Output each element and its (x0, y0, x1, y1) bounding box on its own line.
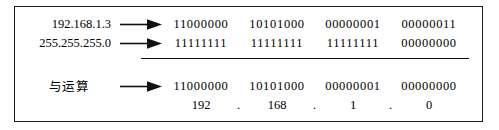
decimal-octet: 168 (241, 96, 313, 115)
and-operation-diagram: 192.168.1.3 1100000010101000000000010000… (14, 6, 483, 122)
binary-octet: 00000001 (317, 77, 389, 96)
subnet-mask-label: 255.255.255.0 (15, 34, 111, 53)
right-arrow-icon (119, 34, 163, 53)
binary-octet: 10101000 (241, 15, 313, 34)
binary-octet: 00000011 (393, 15, 465, 34)
decimal-result: 19216810 . . . (165, 96, 477, 115)
right-arrow-icon (119, 77, 163, 96)
right-arrow-icon (119, 15, 163, 34)
ip-address-row: 192.168.1.3 1100000010101000000000010000… (15, 15, 482, 34)
binary-octet: 11111111 (165, 34, 237, 53)
decimal-octet: 192 (165, 96, 237, 115)
decimal-octet: 0 (393, 96, 465, 115)
binary-octet: 00000001 (317, 15, 389, 34)
decimal-separator: . (313, 96, 316, 115)
binary-octet: 11000000 (165, 15, 237, 34)
subnet-mask-row: 255.255.255.0 11111111111111111111111100… (15, 34, 482, 53)
binary-octet: 11111111 (241, 34, 313, 53)
binary-octet: 11000000 (165, 77, 237, 96)
binary-octet: 10101000 (241, 77, 313, 96)
and-result-row: 与运算 11000000101010000000000100000000 (15, 77, 482, 96)
ip-address-binary: 11000000101010000000000100000011 (165, 15, 477, 34)
and-operation-label: 与运算 (21, 77, 117, 96)
decimal-separator: . (237, 96, 240, 115)
operation-divider-line (141, 58, 469, 59)
decimal-separator: . (389, 96, 392, 115)
decimal-result-row: 19216810 . . . (15, 96, 482, 115)
and-result-binary: 11000000101010000000000100000000 (165, 77, 477, 96)
binary-octet: 11111111 (317, 34, 389, 53)
binary-octet: 00000000 (393, 34, 465, 53)
ip-address-label: 192.168.1.3 (15, 15, 111, 34)
decimal-octet: 1 (317, 96, 389, 115)
binary-octet: 00000000 (393, 77, 465, 96)
subnet-mask-binary: 11111111111111111111111100000000 (165, 34, 477, 53)
